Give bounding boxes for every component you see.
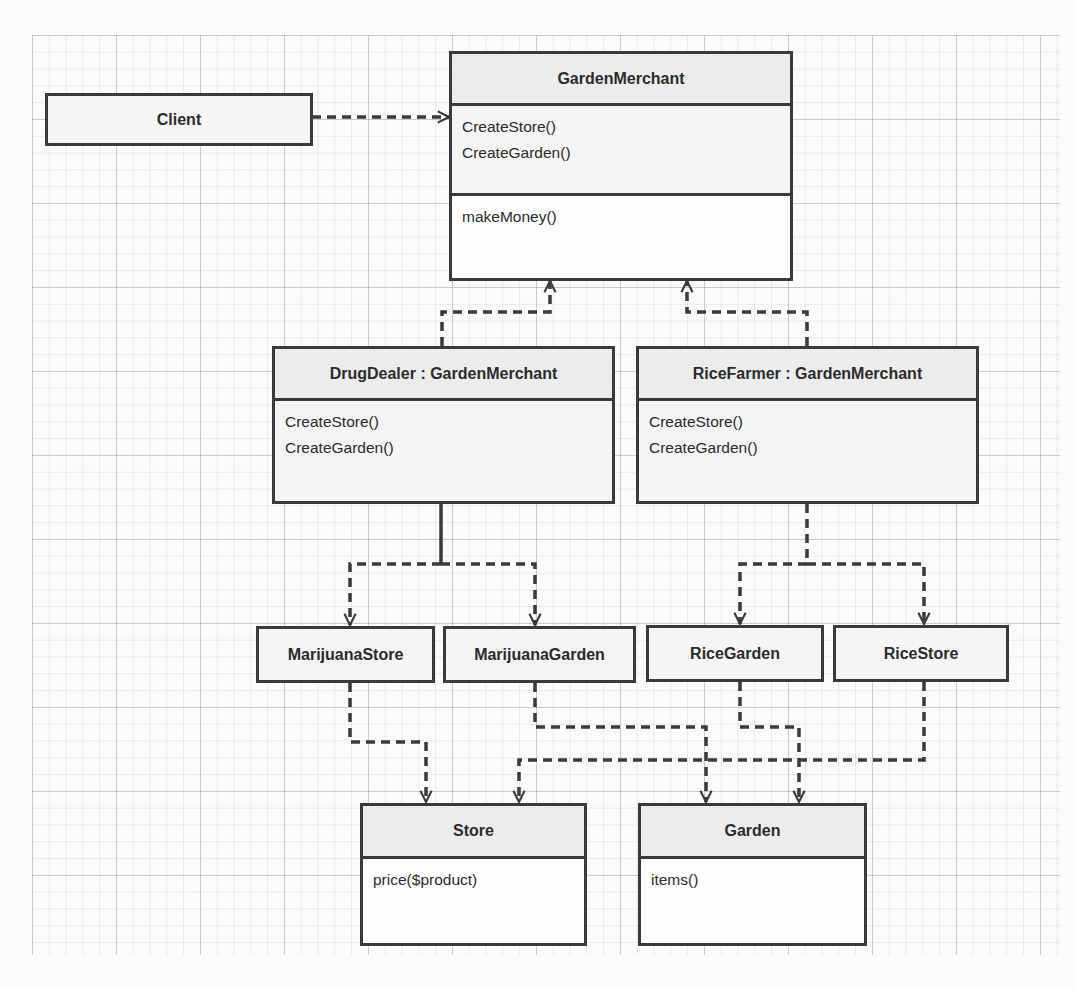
class-store: Store price($product) (360, 803, 587, 946)
ricestore-to-store-arrow (519, 682, 924, 802)
ricefarmer-to-gardenmerchant-arrow (687, 281, 807, 346)
class-gardenmerchant: GardenMerchant CreateStore() CreateGarde… (449, 51, 793, 281)
method: CreateGarden() (462, 140, 780, 166)
class-header: RiceFarmer : GardenMerchant (639, 349, 976, 401)
class-ricefarmer: RiceFarmer : GardenMerchant CreateStore(… (636, 346, 979, 504)
ricefarmer-to-ricegarden-arrow (740, 564, 807, 624)
class-name: RiceStore (884, 645, 959, 663)
class-name: Store (453, 822, 494, 840)
class-name: DrugDealer : GardenMerchant (330, 365, 558, 383)
method: CreateStore() (649, 409, 966, 435)
method: price($product) (373, 867, 574, 893)
class-name: RiceFarmer : GardenMerchant (693, 365, 922, 383)
methods-section: CreateStore() CreateGarden() (639, 401, 976, 501)
class-name: GardenMerchant (557, 70, 684, 88)
method: CreateStore() (285, 409, 602, 435)
drugdealer-to-marijuanastore-arrow (350, 564, 441, 625)
class-ricestore: RiceStore (833, 625, 1009, 682)
methods-section: price($product) (363, 859, 584, 943)
methods-section: makeMoney() (452, 193, 790, 278)
method: CreateGarden() (649, 435, 966, 461)
class-ricegarden: RiceGarden (646, 625, 824, 682)
method: CreateGarden() (285, 435, 602, 461)
class-name: Client (157, 111, 201, 129)
marijuanagarden-to-garden-arrow (535, 683, 706, 802)
class-header: DrugDealer : GardenMerchant (275, 349, 612, 401)
class-garden: Garden items() (638, 803, 867, 946)
class-header: GardenMerchant (452, 54, 790, 106)
method: items() (651, 867, 854, 893)
ricefarmer-to-ricestore-arrow (807, 564, 924, 624)
marijuanastore-to-store-arrow (350, 683, 426, 802)
class-name: MarijuanaStore (288, 646, 404, 664)
method: makeMoney() (462, 204, 780, 230)
ricegarden-to-garden-arrow (740, 682, 799, 802)
drugdealer-to-marijuanagarden-arrow (441, 564, 535, 625)
class-name: MarijuanaGarden (474, 646, 605, 664)
class-marijuanagarden: MarijuanaGarden (443, 626, 636, 683)
method: CreateStore() (462, 114, 780, 140)
drugdealer-to-gardenmerchant-arrow (442, 281, 550, 346)
class-marijuanastore: MarijuanaStore (256, 626, 435, 683)
abstract-methods-section: CreateStore() CreateGarden() (452, 106, 790, 193)
class-name: RiceGarden (690, 645, 780, 663)
methods-section: CreateStore() CreateGarden() (275, 401, 612, 501)
class-header: Garden (641, 806, 864, 859)
class-name: Garden (724, 822, 780, 840)
class-client: Client (45, 93, 313, 146)
class-drugdealer: DrugDealer : GardenMerchant CreateStore(… (272, 346, 615, 504)
class-header: Store (363, 806, 584, 859)
methods-section: items() (641, 859, 864, 943)
